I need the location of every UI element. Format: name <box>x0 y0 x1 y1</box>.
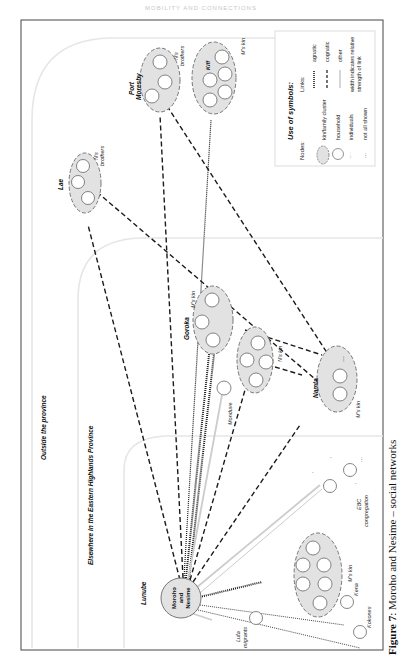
legend-title: Use of symbols: <box>286 82 295 140</box>
legend-link-agnatic: agnatic <box>311 44 317 62</box>
monduve-label: Monduve <box>227 402 233 425</box>
zone-label-lunube: Lunube <box>140 581 147 605</box>
legend-width-note-1: width indicates relative <box>349 37 355 93</box>
lufa-label-2: migrants <box>242 627 248 648</box>
ebc-label-2: congregation <box>363 495 369 527</box>
legend-individual-icon: o ~~~ <box>349 151 352 158</box>
place-label-goroka: Goroka <box>183 317 190 340</box>
legend-links-heading: Links: <box>299 76 305 92</box>
zone-label-ehp: Elsewhere in the Eastern Highlands Provi… <box>87 425 95 565</box>
running-header: MOBILITY AND CONNECTIONS <box>145 5 257 11</box>
ebc-individual-marker-1: o ~~~ <box>312 471 319 474</box>
kiff-kin-label: M's kin <box>240 38 246 55</box>
social-network-diagram: MOBILITY AND CONNECTIONS Outside the pro… <box>0 0 402 664</box>
port-moresby-kin-label-2: brothers <box>179 46 185 66</box>
figure-caption: Figure 7: Moroho and Nesime – social net… <box>386 440 398 655</box>
legend-link-other: other <box>337 49 343 62</box>
legend-household-icon <box>333 149 344 160</box>
place-label-kiff: Kiff <box>205 60 211 70</box>
namta-kin-label: M's kin <box>355 401 361 418</box>
legend-dots-icon: ... <box>361 153 367 158</box>
lufa-label-1: Lufa <box>235 631 241 642</box>
goroka-nkin-label: N's kin <box>277 346 283 362</box>
legend-node-not-shown: not all shown <box>362 108 368 140</box>
figure-caption-text: : Moroho and Nesime – social networks <box>386 440 398 616</box>
legend-nodes-heading: Nodes: <box>299 141 305 160</box>
center-label-line1: Moroho <box>171 587 177 609</box>
kena-label: Kena <box>353 583 359 596</box>
legend-node-cluster: kin/family cluster <box>321 99 327 140</box>
place-label-port: Port <box>128 81 135 95</box>
place-label-lae: Lae <box>57 178 64 190</box>
ebc-more-dots: ... <box>357 457 363 462</box>
node-center[interactable]: Moroho and Nesime <box>161 578 201 618</box>
goroka-kin-label: M's kin <box>190 291 196 308</box>
figure-caption-label: Figure 7 <box>386 615 398 655</box>
kokones-label: Kokones <box>366 606 372 628</box>
lunube-kin-label: M's kin <box>347 565 353 582</box>
legend-width-note-2: strength of link <box>356 56 362 92</box>
lae-kin-label-2: brothers <box>99 146 105 166</box>
namta-more-dots: ... <box>338 356 345 362</box>
legend-cluster-icon <box>317 146 329 164</box>
legend-node-individuals: individuals <box>348 114 354 140</box>
legend: Use of symbols: Nodes: Links: kin/family… <box>275 31 375 166</box>
center-label-line3: Nesime <box>185 587 191 609</box>
legend-link-cognatic: cognatic <box>324 41 330 62</box>
ebc-individual-marker-2: o ~~~ <box>330 456 337 459</box>
place-label-moresby: Moresby <box>135 73 143 100</box>
legend-node-household: household <box>335 115 341 140</box>
zone-label-outside: Outside the province <box>40 395 48 460</box>
place-label-namta: Namta <box>312 378 319 398</box>
ebc-individual-marker-3: o ~~~ <box>355 482 362 485</box>
center-label-line2: and <box>178 592 184 603</box>
ebc-label-1: EBC <box>356 499 362 510</box>
